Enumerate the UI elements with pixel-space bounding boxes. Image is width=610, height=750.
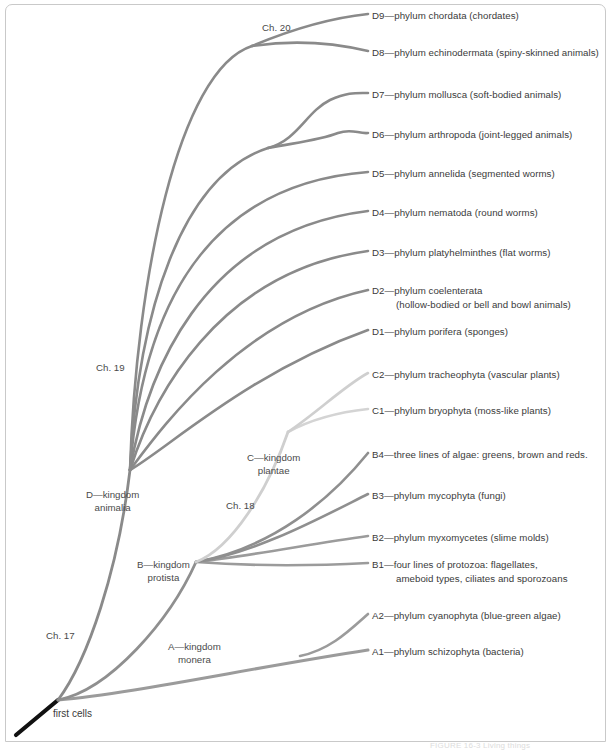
leaf-label-b4: B4—three lines of algae: greens, brown a… [372, 448, 588, 462]
leaf-label-c1: C1—phylum bryophyta (moss-like plants) [372, 404, 551, 418]
figure-caption: FIGURE 16-3 Living things [430, 741, 530, 750]
leaf-label-d6: D6—phylum arthropoda (joint-legged anima… [372, 128, 572, 142]
leaf-label-line1: D4—phylum nematoda (round worms) [372, 207, 538, 218]
leaf-label-line1: D7—phylum mollusca (soft-bodied animals) [372, 89, 561, 100]
leaf-label-d5: D5—phylum annelida (segmented worms) [372, 167, 555, 181]
leaf-label-line1: D5—phylum annelida (segmented worms) [372, 168, 555, 179]
kingdom-label-animalia: D—kingdomanimalia [86, 488, 139, 514]
leaf-label-line2: (hollow-bodied or bell and bowl animals) [372, 298, 571, 312]
kingdom-label-line1: C—kingdom [247, 451, 300, 464]
chapter-label-ch18: Ch. 18 [226, 500, 255, 511]
kingdom-label-line1: D—kingdom [86, 488, 139, 501]
leaf-label-line1: B2—phylum myxomycetes (slime molds) [372, 532, 549, 543]
leaf-label-line1: B1—four lines of protozoa: flagellates, [372, 559, 538, 570]
leaf-label-line1: D8—phylum echinodermata (spiny-skinned a… [372, 47, 599, 58]
tree-branch-branch-A2 [300, 614, 368, 656]
leaf-label-line1: D6—phylum arthropoda (joint-legged anima… [372, 129, 572, 140]
leaf-label-line1: D9—phylum chordata (chordates) [372, 10, 519, 21]
leaf-label-line1: B4—three lines of algae: greens, brown a… [372, 449, 588, 460]
kingdom-label-line1: A—kingdom [168, 640, 221, 653]
kingdom-label-line2: plantae [247, 464, 300, 477]
leaf-label-d3: D3—phylum platyhelminthes (flat worms) [372, 246, 550, 260]
leaf-label-a2: A2—phylum cyanophyta (blue-green algae) [372, 609, 561, 623]
leaf-label-c2: C2—phylum tracheophyta (vascular plants) [372, 368, 560, 382]
kingdom-label-monera: A—kingdommonera [168, 640, 221, 666]
leaf-label-d9: D9—phylum chordata (chordates) [372, 9, 519, 23]
tree-branch-branch-D1 [130, 330, 368, 470]
kingdom-label-plantae: C—kingdomplantae [247, 451, 300, 477]
leaf-label-b1: B1—four lines of protozoa: flagellates,a… [372, 558, 568, 585]
tree-branch-branch-C2 [288, 373, 368, 432]
leaf-label-d7: D7—phylum mollusca (soft-bodied animals) [372, 88, 561, 102]
leaf-label-a1: A1—phylum schizophyta (bacteria) [372, 645, 524, 659]
leaf-label-d4: D4—phylum nematoda (round worms) [372, 206, 538, 220]
kingdom-label-line1: B—kingdom [137, 558, 190, 571]
leaf-label-d8: D8—phylum echinodermata (spiny-skinned a… [372, 46, 599, 60]
tree-branch-branch-B2 [196, 536, 368, 562]
tree-branch-root-stem [16, 700, 58, 735]
leaf-label-line1: D3—phylum platyhelminthes (flat worms) [372, 247, 550, 258]
leaf-label-line1: B3—phylum mycophyta (fungi) [372, 490, 506, 501]
tree-branch-layer [16, 14, 368, 735]
chapter-label-ch20: Ch. 20 [262, 22, 291, 33]
tree-branch-branch-C1 [288, 409, 368, 432]
kingdom-label-line2: monera [168, 653, 221, 666]
kingdom-label-line2: animalia [86, 501, 139, 514]
leaf-label-b3: B3—phylum mycophyta (fungi) [372, 489, 506, 503]
leaf-label-line2: ameboid types, ciliates and sporozoans [372, 572, 568, 586]
leaf-label-line1: C2—phylum tracheophyta (vascular plants) [372, 369, 560, 380]
leaf-label-line1: A2—phylum cyanophyta (blue-green algae) [372, 610, 561, 621]
tree-branch-branch-D3 [130, 251, 368, 470]
tree-branch-branch-D8 [252, 43, 368, 51]
leaf-label-line1: A1—phylum schizophyta (bacteria) [372, 646, 524, 657]
leaf-label-d2: D2—phylum coelenterata(hollow-bodied or … [372, 284, 571, 311]
kingdom-label-protista: B—kingdomprotista [137, 558, 190, 584]
leaf-label-b2: B2—phylum myxomycetes (slime molds) [372, 531, 549, 545]
chapter-label-ch17: Ch. 17 [46, 630, 75, 641]
chapter-label-ch19: Ch. 19 [96, 362, 125, 373]
leaf-label-d1: D1—phylum porifera (sponges) [372, 325, 508, 339]
leaf-label-line1: D1—phylum porifera (sponges) [372, 326, 508, 337]
kingdom-label-line2: protista [137, 571, 190, 584]
root-label-first-cells: first cells [53, 708, 92, 719]
tree-branch-branch-B1 [196, 562, 368, 565]
tree-branch-branch-D6 [268, 131, 368, 148]
figure-page: D9—phylum chordata (chordates)D8—phylum … [0, 0, 610, 750]
tree-branch-branch-D4 [130, 211, 368, 470]
leaf-label-line1: D2—phylum coelenterata [372, 285, 482, 296]
tree-branch-branch-D2 [130, 290, 368, 470]
leaf-label-line1: C1—phylum bryophyta (moss-like plants) [372, 405, 551, 416]
tree-branch-branch-D89 [130, 46, 252, 470]
